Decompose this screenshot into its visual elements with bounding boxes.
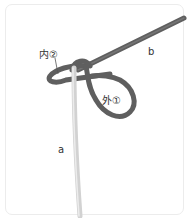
label-cord-a: a [58, 145, 64, 155]
label-outer: 外① [102, 96, 121, 106]
knot-illustration [0, 0, 190, 218]
cord-a [73, 68, 80, 216]
knot-diagram: 内② 外① a b [0, 0, 190, 218]
label-inner: 内② [39, 50, 58, 60]
label-cord-b: b [148, 47, 154, 57]
